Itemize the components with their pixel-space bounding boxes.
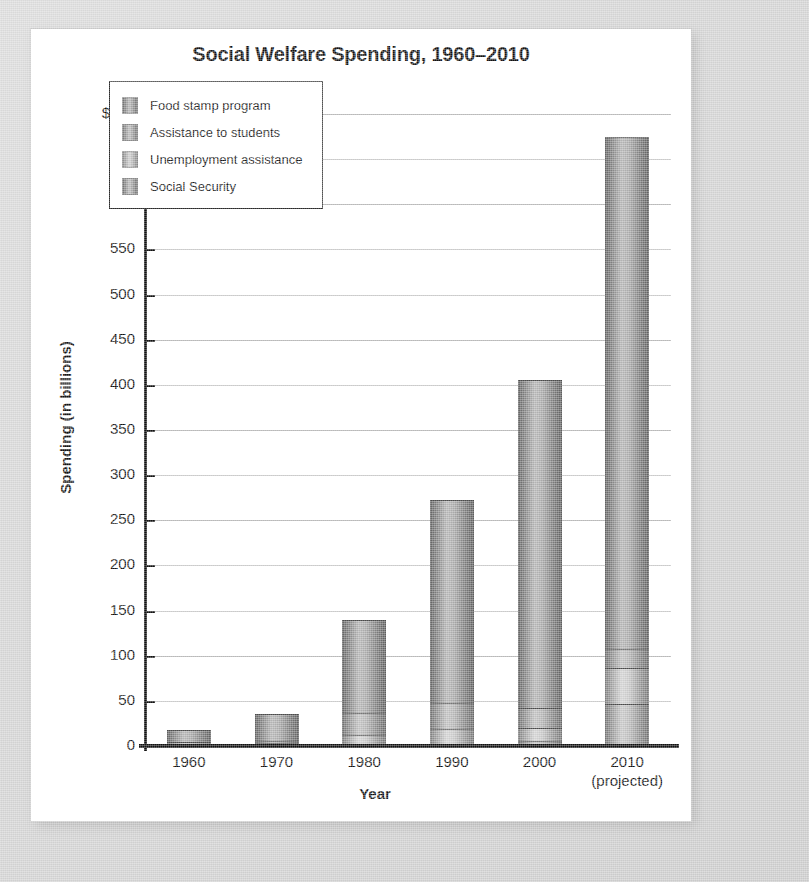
y-axis-tick — [144, 656, 155, 658]
legend-item[interactable]: Food stamp program — [122, 92, 312, 119]
y-axis-tick-label: 400 — [51, 375, 135, 392]
bar-segment — [430, 500, 474, 702]
legend-item[interactable]: Assistance to students — [122, 119, 312, 146]
y-axis-tick-label: 0 — [51, 736, 135, 753]
y-axis-tick-label: 300 — [51, 465, 135, 482]
legend-swatch-icon — [122, 97, 138, 114]
legend-item-label: Food stamp program — [150, 98, 271, 113]
gridline — [145, 565, 671, 566]
y-axis-tick-label: 500 — [51, 285, 135, 302]
y-axis-tick-label: 150 — [51, 601, 135, 618]
legend-item[interactable]: Unemployment assistance — [122, 146, 312, 173]
bar-segment — [605, 668, 649, 703]
y-axis-tick-label: 100 — [51, 646, 135, 663]
bar-segment — [255, 714, 299, 741]
bar-segment — [518, 708, 562, 728]
legend-item-label: Unemployment assistance — [150, 152, 302, 167]
y-axis-tick-label: 450 — [51, 330, 135, 347]
gridline — [145, 295, 671, 296]
legend-swatch-icon — [122, 124, 138, 141]
y-axis-tick — [144, 249, 155, 251]
y-axis-tick — [144, 565, 155, 567]
gridline — [145, 656, 671, 657]
gridline — [145, 701, 671, 702]
bar-segment — [167, 730, 211, 743]
x-axis-labels: 196019701980199020002010(projected) — [145, 753, 671, 813]
gridline — [145, 385, 671, 386]
bar-segment — [605, 649, 649, 669]
y-axis-tick-label: 350 — [51, 420, 135, 437]
y-axis-tick — [144, 385, 155, 387]
y-axis-tick-label: 200 — [51, 555, 135, 572]
bar-segment — [430, 703, 474, 729]
bar-1990[interactable] — [430, 500, 474, 746]
legend-swatch-icon — [122, 178, 138, 195]
gridline — [145, 475, 671, 476]
x-axis-tick-label: 2010(projected) — [572, 753, 682, 789]
bar-2000[interactable] — [518, 380, 562, 746]
x-axis-title: Year — [145, 785, 605, 802]
legend-item-label: Assistance to students — [150, 125, 280, 140]
chart-card: Social Welfare Spending, 1960–2010 Spend… — [30, 28, 692, 822]
gridline — [145, 430, 671, 431]
bar-segment — [430, 729, 474, 745]
y-axis-tick — [144, 340, 155, 342]
bar-segment — [605, 137, 649, 649]
legend-item-label: Social Security — [150, 179, 236, 194]
gridline — [145, 249, 671, 250]
bar-segment — [342, 713, 386, 736]
y-axis-tick-label: 50 — [51, 691, 135, 708]
y-axis-tick-label: 550 — [51, 239, 135, 256]
x-axis-line — [139, 744, 679, 748]
bar-1970[interactable] — [255, 714, 299, 747]
chart-figure: Social Welfare Spending, 1960–2010 Spend… — [31, 29, 691, 821]
bar-segment — [342, 620, 386, 713]
bar-segment — [605, 704, 649, 746]
y-axis-tick — [144, 430, 155, 432]
bar-1980[interactable] — [342, 620, 386, 746]
chart-legend: Food stamp programAssistance to students… — [109, 81, 323, 209]
y-axis-tick — [144, 701, 155, 703]
legend-item[interactable]: Social Security — [122, 173, 312, 200]
bar-segment — [255, 741, 299, 744]
y-axis-tick-label: 250 — [51, 510, 135, 527]
gridline — [145, 340, 671, 341]
y-axis-tick — [144, 520, 155, 522]
bar-segment — [518, 728, 562, 741]
page-background: Social Welfare Spending, 1960–2010 Spend… — [0, 0, 809, 882]
gridline — [145, 520, 671, 521]
bar-2010[interactable] — [605, 137, 649, 746]
y-axis-tick — [144, 295, 155, 297]
bar-segment — [518, 380, 562, 708]
y-axis-tick — [144, 611, 155, 613]
y-axis-tick — [144, 475, 155, 477]
gridline — [145, 611, 671, 612]
legend-swatch-icon — [122, 151, 138, 168]
